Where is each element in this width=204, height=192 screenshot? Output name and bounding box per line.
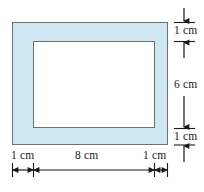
inner-width-dim-label: 8 cm — [75, 150, 98, 162]
frame-diagram-figure: 1 cm 6 cm 1 cm 1 cm 8 cm 1 cm — [0, 0, 204, 192]
inner-height-dim-label: 6 cm — [174, 79, 197, 91]
inner-rectangle — [34, 42, 155, 128]
right-border-dim-label: 1 cm — [143, 150, 166, 162]
left-border-dim-label: 1 cm — [11, 150, 34, 162]
bottom-border-dim-label: 1 cm — [174, 131, 197, 143]
bottom-dimension-group — [13, 163, 168, 177]
frame-shape — [13, 23, 168, 145]
top-border-dim-label: 1 cm — [174, 25, 197, 37]
